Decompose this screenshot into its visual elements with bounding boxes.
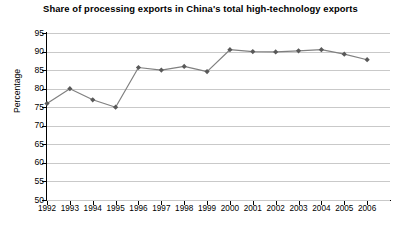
data-point-1998: [182, 64, 187, 69]
y-tick-label-80: 80: [4, 84, 44, 93]
y-tick-label-75: 75: [4, 103, 44, 112]
y-tick-label-55: 55: [4, 177, 44, 186]
x-tick-mark-2001: [253, 201, 254, 205]
chart-title: Share of processing exports in China's t…: [0, 3, 401, 14]
x-tick-mark-2006: [367, 201, 368, 205]
gridline-50: [47, 200, 390, 201]
line-series: [47, 33, 390, 200]
chart-figure: Share of processing exports in China's t…: [0, 0, 401, 226]
x-tick-mark-2004: [321, 201, 322, 205]
x-tick-mark-1997: [161, 201, 162, 205]
series-line: [47, 50, 367, 108]
x-tick-mark-1993: [70, 201, 71, 205]
x-tick-mark-1995: [116, 201, 117, 205]
plot-area: [47, 33, 390, 200]
data-point-2006: [365, 57, 370, 62]
x-tick-mark-2000: [230, 201, 231, 205]
y-tick-label-90: 90: [4, 47, 44, 56]
x-tick-mark-2002: [276, 201, 277, 205]
series-markers: [44, 47, 369, 110]
x-tick-mark-1992: [47, 201, 48, 205]
y-tick-label-65: 65: [4, 140, 44, 149]
data-point-2003: [296, 48, 301, 53]
x-tick-mark-1999: [207, 201, 208, 205]
y-axis-ticks: 50556065707580859095: [0, 0, 44, 226]
x-tick-mark-2005: [344, 201, 345, 205]
data-point-2002: [273, 49, 278, 54]
data-point-2001: [250, 49, 255, 54]
data-point-1997: [159, 68, 164, 73]
y-tick-label-85: 85: [4, 66, 44, 75]
data-point-1995: [113, 105, 118, 110]
x-tick-mark-2003: [299, 201, 300, 205]
y-tick-label-95: 95: [4, 29, 44, 38]
x-tick-label-2006: 2006: [350, 205, 384, 213]
data-point-1996: [136, 65, 141, 70]
data-point-2004: [319, 47, 324, 52]
x-tick-mark-1998: [184, 201, 185, 205]
y-tick-label-60: 60: [4, 158, 44, 167]
y-tick-label-50: 50: [4, 196, 44, 205]
data-point-2005: [342, 52, 347, 57]
x-tick-mark-1994: [93, 201, 94, 205]
y-tick-label-70: 70: [4, 121, 44, 130]
data-point-1994: [90, 97, 95, 102]
x-tick-mark-1996: [138, 201, 139, 205]
